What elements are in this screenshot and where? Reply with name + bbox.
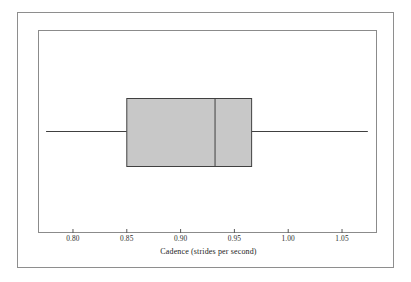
x-axis-label-group: 0.80 0.85 0.90 0.95 1.00 1.05 Cadence (s… [0,0,411,282]
x-tick-label-5: 1.05 [335,234,348,243]
figure-root: 0.80 0.85 0.90 0.95 1.00 1.05 Cadence (s… [0,0,411,282]
x-tick-label-3: 0.95 [228,234,241,243]
x-tick-label-0: 0.80 [66,234,79,243]
x-tick-label-2: 0.90 [174,234,187,243]
x-axis-title-wrap: Cadence (strides per second) [0,247,411,256]
x-tick-label-1: 0.85 [120,234,133,243]
x-axis-title: Cadence (strides per second) [160,247,256,256]
x-tick-label-4: 1.00 [282,234,295,243]
